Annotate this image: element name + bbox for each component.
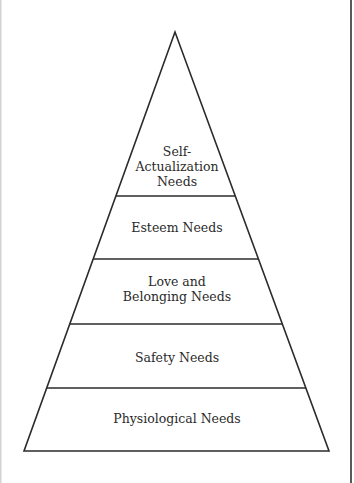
level-self-actualization: Self- Actualization Needs — [0, 144, 354, 189]
level-physiological: Physiological Needs — [0, 411, 354, 426]
level-label-line: Love and — [0, 274, 354, 289]
level-love-belonging: Love and Belonging Needs — [0, 274, 354, 304]
level-safety: Safety Needs — [0, 350, 354, 365]
level-label-line: Self- — [0, 144, 354, 159]
level-label-line: Safety Needs — [0, 350, 354, 365]
level-label-line: Actualization — [0, 159, 354, 174]
level-label-line: Physiological Needs — [0, 411, 354, 426]
level-esteem: Esteem Needs — [0, 220, 354, 235]
level-label-line: Needs — [0, 174, 354, 189]
level-label-line: Esteem Needs — [0, 220, 354, 235]
level-label-line: Belonging Needs — [0, 289, 354, 304]
diagram-frame: Self- Actualization Needs Esteem Needs L… — [0, 0, 354, 483]
